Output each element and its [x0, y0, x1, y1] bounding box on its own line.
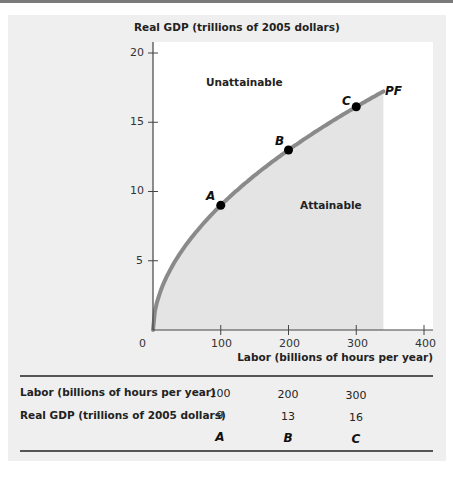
y-tick-20: 20: [130, 46, 144, 59]
production-function-chart: [0, 0, 453, 477]
point-a-label: A: [206, 189, 215, 203]
point-a-marker: [216, 201, 225, 210]
table-cell: 9: [200, 409, 240, 422]
unattainable-label: Unattainable: [206, 76, 283, 88]
table-cell: 16: [336, 411, 376, 424]
point-c-label: C: [342, 94, 351, 108]
x-tick-200: 200: [279, 337, 300, 350]
y-axis-title: Real GDP (trillions of 2005 dollars): [134, 21, 340, 33]
x-axis-title: Labor (billions of hours per year): [237, 351, 433, 363]
attainable-label: Attainable: [300, 199, 362, 211]
table-row-labor-label: Labor (billions of hours per year): [20, 386, 216, 398]
table-cell: 13: [268, 410, 308, 423]
table-row-gdp-label: Real GDP (trillions of 2005 dollars): [20, 409, 226, 421]
x-tick-0: 0: [139, 337, 146, 350]
table-cell: 200: [268, 388, 308, 401]
table-cell-point-letter: B: [268, 431, 308, 445]
table-cell-point-letter: C: [336, 432, 376, 446]
x-tick-300: 300: [347, 337, 368, 350]
point-c-marker: [352, 102, 361, 111]
table-cell-point-letter: A: [200, 430, 240, 444]
point-b-marker: [284, 145, 293, 154]
x-tick-100: 100: [211, 337, 232, 350]
y-tick-10: 10: [130, 184, 144, 197]
y-tick-15: 15: [130, 115, 144, 128]
pf-label: PF: [385, 84, 402, 98]
table-cell: 300: [336, 389, 376, 402]
table-top-rule: [20, 375, 433, 377]
point-b-label: B: [275, 134, 284, 148]
table-cell: 100: [200, 387, 240, 400]
x-tick-400: 400: [415, 337, 436, 350]
y-tick-5: 5: [136, 254, 143, 267]
table-bottom-rule: [20, 450, 433, 452]
